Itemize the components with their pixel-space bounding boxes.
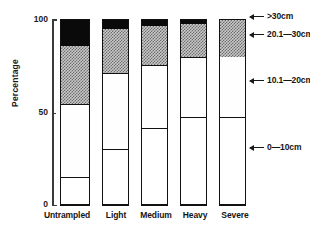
- segment-20-30cm: [220, 20, 245, 57]
- segment-20-30cm: [142, 26, 167, 66]
- legend-label: 20.1—30cm: [267, 29, 310, 39]
- bar-outline: [141, 19, 168, 206]
- segment-0-10cm: [142, 129, 167, 205]
- arrow-left-icon: [250, 16, 264, 17]
- bar-heavy[interactable]: [180, 19, 207, 206]
- segment-over-30cm: [103, 20, 128, 29]
- segment-0-10cm: [220, 118, 245, 205]
- bar-untrampled[interactable]: [60, 19, 90, 206]
- segment-20-30cm: [61, 46, 89, 106]
- arrow-left-icon: [250, 80, 264, 81]
- stacked-bar-chart: Percentage 100 50 0: [0, 0, 310, 237]
- y-axis-label-100: 100: [34, 14, 48, 24]
- legend-label: >30cm: [267, 11, 293, 21]
- category-label-untrampled: Untrampled: [38, 210, 96, 220]
- category-label-medium: Medium: [133, 210, 179, 220]
- bar-severe[interactable]: [219, 19, 246, 206]
- y-axis-label-50: 50: [39, 107, 48, 117]
- legend-label: 0—10cm: [267, 142, 301, 152]
- plot-area: [58, 19, 248, 206]
- segment-0-10cm: [181, 118, 206, 205]
- category-label-severe: Severe: [213, 210, 257, 220]
- bar-medium[interactable]: [141, 19, 168, 206]
- segment-20-30cm: [181, 24, 206, 58]
- segment-over-30cm: [61, 20, 89, 46]
- segment-10-20cm: [220, 57, 245, 118]
- legend-label: 10.1—20cm: [267, 75, 310, 85]
- y-axis-title: Percentage: [10, 38, 20, 128]
- y-axis-label-0: 0: [43, 199, 48, 209]
- bar-outline: [219, 19, 246, 206]
- y-axis-top-cap: [52, 19, 57, 21]
- bar-outline: [102, 19, 129, 206]
- segment-20-30cm: [103, 29, 128, 73]
- y-axis-tick-50: [52, 113, 56, 115]
- category-label-heavy: Heavy: [174, 210, 216, 220]
- category-label-light: Light: [95, 210, 137, 220]
- segment-0-10cm: [103, 150, 128, 205]
- segment-0-10cm: [61, 178, 89, 205]
- segment-10-20cm: [103, 74, 128, 151]
- bar-light[interactable]: [102, 19, 129, 206]
- arrow-left-icon: [250, 34, 264, 35]
- segment-10-20cm: [181, 58, 206, 118]
- segment-10-20cm: [142, 66, 167, 129]
- arrow-left-icon: [250, 147, 264, 148]
- bar-outline: [60, 19, 90, 206]
- y-axis-bottom-cap: [52, 205, 57, 207]
- segment-10-20cm: [61, 105, 89, 178]
- bar-outline: [180, 19, 207, 206]
